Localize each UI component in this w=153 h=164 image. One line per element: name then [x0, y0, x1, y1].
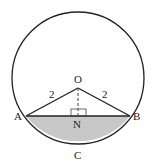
label-c: C [74, 149, 81, 161]
circle-segment-diagram: O A B N C 2 2 [0, 0, 153, 164]
label-o: O [74, 73, 82, 85]
label-oa-length: 2 [49, 88, 55, 100]
label-ob-length: 2 [102, 88, 108, 100]
label-a: A [14, 110, 22, 122]
label-n: N [73, 118, 81, 130]
label-b: B [133, 110, 140, 122]
